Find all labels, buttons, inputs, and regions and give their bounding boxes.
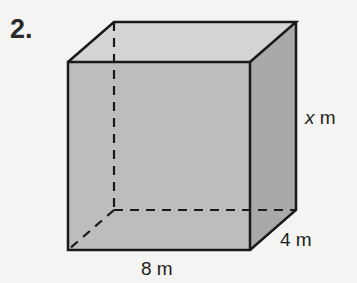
height-variable: x <box>305 107 315 128</box>
front-face <box>68 62 250 250</box>
width-label: 8 m <box>141 258 173 280</box>
height-label: x m <box>305 107 336 129</box>
depth-label: 4 m <box>280 229 312 251</box>
height-unit: m <box>315 107 336 128</box>
